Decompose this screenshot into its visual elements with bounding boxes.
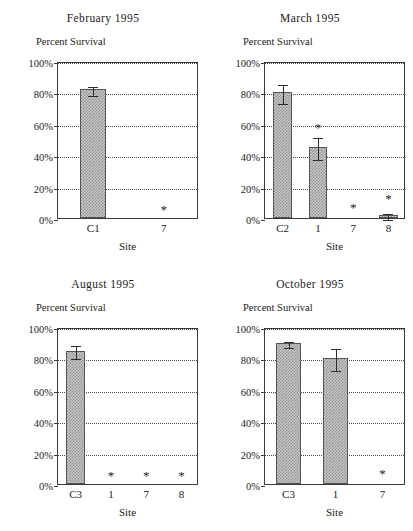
x-tick-label: 7 bbox=[161, 222, 167, 234]
y-tick-label: 0% bbox=[246, 481, 260, 492]
x-tick-label: 8 bbox=[179, 488, 185, 500]
significance-asterisk: * bbox=[161, 203, 168, 216]
x-tick-label: 1 bbox=[333, 488, 339, 500]
plot-area: 0%20%40%60%80%100%C3178***Site bbox=[57, 328, 198, 485]
y-tick-label: 60% bbox=[241, 120, 260, 131]
x-axis-title: Site bbox=[326, 506, 343, 518]
error-cap-upper bbox=[71, 346, 81, 347]
x-tick-label: 1 bbox=[108, 488, 114, 500]
y-tick-mark bbox=[261, 126, 265, 127]
y-axis-title: Percent Survival bbox=[243, 302, 313, 313]
y-tick-label: 40% bbox=[241, 152, 260, 163]
y-tick-mark bbox=[261, 63, 265, 64]
gridline bbox=[265, 329, 404, 330]
significance-asterisk: * bbox=[379, 467, 386, 480]
chart-panel-march: March 1995 Percent Survival 0%20%40%60%8… bbox=[207, 0, 413, 265]
y-tick-mark bbox=[54, 63, 58, 64]
y-tick-mark bbox=[54, 329, 58, 330]
panel-title: October 1995 bbox=[207, 278, 413, 290]
y-tick-label: 80% bbox=[34, 89, 53, 100]
gridline bbox=[58, 157, 197, 158]
significance-asterisk: * bbox=[178, 469, 185, 482]
y-tick-mark bbox=[261, 423, 265, 424]
y-axis-title: Percent Survival bbox=[243, 36, 313, 47]
gridline bbox=[58, 189, 197, 190]
y-tick-mark bbox=[54, 423, 58, 424]
y-tick-mark bbox=[54, 220, 58, 221]
error-cap-lower bbox=[71, 359, 81, 360]
y-tick-label: 100% bbox=[29, 324, 54, 335]
bar bbox=[66, 351, 84, 484]
x-axis-title: Site bbox=[326, 240, 343, 252]
y-tick-label: 80% bbox=[34, 355, 53, 366]
survival-figure: February 1995 Percent Survival 0%20%40%6… bbox=[0, 0, 413, 531]
y-tick-mark bbox=[261, 220, 265, 221]
x-axis-title: Site bbox=[119, 506, 136, 518]
error-cap-lower bbox=[331, 371, 341, 372]
y-tick-label: 20% bbox=[241, 183, 260, 194]
x-tick-label: C1 bbox=[87, 222, 100, 234]
error-cap-lower bbox=[284, 348, 294, 349]
y-tick-mark bbox=[261, 392, 265, 393]
y-tick-label: 40% bbox=[241, 418, 260, 429]
error-cap-lower bbox=[383, 220, 393, 221]
chart-panel-october: October 1995 Percent Survival 0%20%40%60… bbox=[207, 266, 413, 531]
y-tick-label: 40% bbox=[34, 152, 53, 163]
y-tick-label: 60% bbox=[34, 120, 53, 131]
error-bar bbox=[336, 349, 337, 371]
y-tick-mark bbox=[54, 486, 58, 487]
x-tick-label: 7 bbox=[380, 488, 386, 500]
y-axis-title: Percent Survival bbox=[36, 36, 106, 47]
x-tick-label: 8 bbox=[386, 222, 392, 234]
y-tick-mark bbox=[54, 455, 58, 456]
y-tick-mark bbox=[54, 392, 58, 393]
y-axis-title: Percent Survival bbox=[36, 302, 106, 313]
x-tick-label: C3 bbox=[69, 488, 82, 500]
x-tick-label: 1 bbox=[315, 222, 321, 234]
y-tick-mark bbox=[261, 455, 265, 456]
chart-panel-february: February 1995 Percent Survival 0%20%40%6… bbox=[0, 0, 206, 265]
error-bar bbox=[93, 87, 94, 96]
y-tick-label: 80% bbox=[241, 355, 260, 366]
error-bar bbox=[283, 85, 284, 104]
y-tick-label: 60% bbox=[34, 386, 53, 397]
bar bbox=[273, 92, 291, 218]
panel-title: February 1995 bbox=[0, 12, 206, 24]
significance-asterisk: * bbox=[315, 121, 322, 134]
bar bbox=[80, 89, 106, 218]
y-tick-label: 0% bbox=[246, 215, 260, 226]
gridline bbox=[58, 329, 197, 330]
y-tick-label: 100% bbox=[29, 58, 54, 69]
error-cap-upper bbox=[278, 85, 288, 86]
y-tick-label: 40% bbox=[34, 418, 53, 429]
chart-panel-august: August 1995 Percent Survival 0%20%40%60%… bbox=[0, 266, 206, 531]
error-bar bbox=[318, 138, 319, 160]
y-tick-label: 80% bbox=[241, 89, 260, 100]
error-cap-lower bbox=[278, 104, 288, 105]
gridline bbox=[58, 126, 197, 127]
plot-area: 0%20%40%60%80%100%C17*Site bbox=[57, 62, 198, 219]
error-cap-upper bbox=[313, 138, 323, 139]
y-tick-label: 20% bbox=[241, 449, 260, 460]
error-cap-upper bbox=[88, 87, 98, 88]
y-tick-label: 0% bbox=[39, 215, 53, 226]
plot-area: 0%20%40%60%80%100%C2178***Site bbox=[264, 62, 405, 219]
y-tick-label: 60% bbox=[241, 386, 260, 397]
x-axis-title: Site bbox=[119, 240, 136, 252]
x-tick-label: C2 bbox=[276, 222, 289, 234]
y-tick-mark bbox=[261, 360, 265, 361]
significance-asterisk: * bbox=[385, 192, 392, 205]
y-tick-label: 20% bbox=[34, 183, 53, 194]
y-tick-mark bbox=[261, 329, 265, 330]
y-tick-mark bbox=[261, 189, 265, 190]
y-tick-label: 100% bbox=[236, 58, 261, 69]
significance-asterisk: * bbox=[350, 201, 357, 214]
gridline bbox=[265, 63, 404, 64]
x-tick-label: 7 bbox=[143, 488, 149, 500]
significance-asterisk: * bbox=[108, 469, 115, 482]
y-tick-mark bbox=[54, 157, 58, 158]
y-tick-mark bbox=[261, 157, 265, 158]
error-bar bbox=[76, 346, 77, 359]
x-tick-label: C3 bbox=[282, 488, 295, 500]
error-cap-upper bbox=[383, 214, 393, 215]
